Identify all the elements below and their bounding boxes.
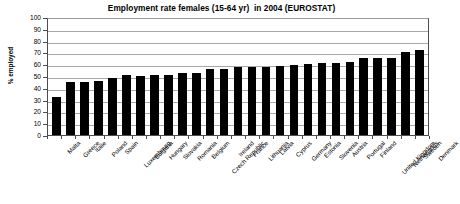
bar-slot bbox=[63, 19, 77, 135]
bar[interactable] bbox=[108, 78, 117, 135]
bar-slot bbox=[147, 19, 161, 135]
y-axis-tick-label: 20 bbox=[34, 109, 41, 116]
x-axis-tick-mark bbox=[146, 136, 147, 139]
y-axis-ticks: 1009080706050403020100 bbox=[0, 18, 47, 136]
bar[interactable] bbox=[248, 67, 257, 135]
bar[interactable] bbox=[136, 76, 145, 135]
y-axis-tick-label: 50 bbox=[34, 74, 41, 81]
bar-slot bbox=[175, 19, 189, 135]
x-axis-tick-mark bbox=[316, 136, 317, 139]
y-axis-tick-label: 90 bbox=[34, 27, 41, 34]
bar-slot bbox=[273, 19, 287, 135]
bar[interactable] bbox=[178, 73, 187, 135]
bar[interactable] bbox=[206, 69, 215, 135]
bar[interactable] bbox=[220, 69, 229, 135]
bar[interactable] bbox=[150, 75, 159, 135]
x-axis-tick-mark bbox=[273, 136, 274, 139]
bar[interactable] bbox=[262, 67, 271, 135]
y-axis-tick-label: 100 bbox=[30, 15, 41, 22]
y-axis-tick-label: 10 bbox=[34, 121, 41, 128]
bar-slot bbox=[245, 19, 259, 135]
x-axis-tick-mark bbox=[401, 136, 402, 139]
y-axis-tick-label: 70 bbox=[34, 50, 41, 57]
bar-slot bbox=[91, 19, 105, 135]
bar-slot bbox=[399, 19, 413, 135]
x-axis-category-label: Malta bbox=[67, 140, 82, 155]
bar[interactable] bbox=[332, 63, 341, 135]
x-axis-tick-mark bbox=[47, 136, 48, 139]
y-axis-tick-label: 30 bbox=[34, 97, 41, 104]
bar-slot bbox=[385, 19, 399, 135]
bar-slot bbox=[105, 19, 119, 135]
bar[interactable] bbox=[66, 82, 75, 135]
bar[interactable] bbox=[401, 52, 410, 135]
x-axis-tick-mark bbox=[104, 136, 105, 139]
bar-slot bbox=[119, 19, 133, 135]
x-axis-tick-mark bbox=[118, 136, 119, 139]
x-axis-tick-mark bbox=[245, 136, 246, 139]
bar[interactable] bbox=[164, 75, 173, 135]
bar-slot bbox=[231, 19, 245, 135]
x-axis-tick-mark bbox=[132, 136, 133, 139]
bar[interactable] bbox=[276, 66, 285, 135]
x-axis-tick-mark bbox=[89, 136, 90, 139]
x-axis-tick-mark bbox=[387, 136, 388, 139]
bar[interactable] bbox=[192, 73, 201, 135]
bar-slot bbox=[259, 19, 273, 135]
bar-slot bbox=[413, 19, 427, 135]
y-axis-tick-label: 40 bbox=[34, 86, 41, 93]
x-axis-tick-mark bbox=[344, 136, 345, 139]
bar[interactable] bbox=[415, 50, 424, 135]
bar[interactable] bbox=[290, 65, 299, 135]
bar[interactable] bbox=[346, 62, 355, 135]
bar-slot bbox=[133, 19, 147, 135]
chart-title: Employment rate females (15-64 yr) in 20… bbox=[0, 3, 443, 13]
bar[interactable] bbox=[122, 75, 131, 135]
bar-slot bbox=[203, 19, 217, 135]
bar-slot bbox=[189, 19, 203, 135]
x-axis-tick-mark bbox=[302, 136, 303, 139]
bar[interactable] bbox=[234, 67, 243, 135]
x-axis-tick-mark bbox=[188, 136, 189, 139]
bar-slot bbox=[357, 19, 371, 135]
bar-slot bbox=[161, 19, 175, 135]
x-axis-tick-mark bbox=[231, 136, 232, 139]
x-axis-tick-mark bbox=[174, 136, 175, 139]
x-axis-tick-mark bbox=[217, 136, 218, 139]
plot-area bbox=[47, 18, 429, 136]
bar[interactable] bbox=[359, 58, 368, 135]
x-axis-tick-mark bbox=[358, 136, 359, 139]
x-axis-tick-mark bbox=[160, 136, 161, 139]
bar[interactable] bbox=[373, 58, 382, 135]
x-axis-tick-mark bbox=[61, 136, 62, 139]
bar[interactable] bbox=[304, 64, 313, 135]
bar-slot bbox=[371, 19, 385, 135]
bar[interactable] bbox=[52, 97, 61, 135]
bar[interactable] bbox=[80, 82, 89, 135]
bar-slot bbox=[343, 19, 357, 135]
bar-slot bbox=[50, 19, 64, 135]
bar-slot bbox=[287, 19, 301, 135]
x-axis-tick-mark bbox=[372, 136, 373, 139]
bar[interactable] bbox=[318, 63, 327, 135]
bar-slot bbox=[329, 19, 343, 135]
bar-slot bbox=[217, 19, 231, 135]
x-axis-tick-mark bbox=[203, 136, 204, 139]
y-axis-tick-label: 0 bbox=[37, 133, 41, 140]
x-axis-labels: MaltaGreeceItaliePolandSpainLuxembourgBu… bbox=[47, 140, 429, 204]
bar[interactable] bbox=[387, 58, 396, 135]
x-axis-tick-mark bbox=[429, 136, 430, 139]
bar-slot bbox=[77, 19, 91, 135]
x-axis-tick-mark bbox=[330, 136, 331, 139]
y-axis-tick-label: 80 bbox=[34, 38, 41, 45]
bar-slot bbox=[301, 19, 315, 135]
bar-series bbox=[48, 19, 428, 135]
x-axis-tick-mark bbox=[288, 136, 289, 139]
y-axis-tick-label: 60 bbox=[34, 62, 41, 69]
bar[interactable] bbox=[94, 81, 103, 135]
bar-slot bbox=[315, 19, 329, 135]
x-axis-tick-mark bbox=[415, 136, 416, 139]
